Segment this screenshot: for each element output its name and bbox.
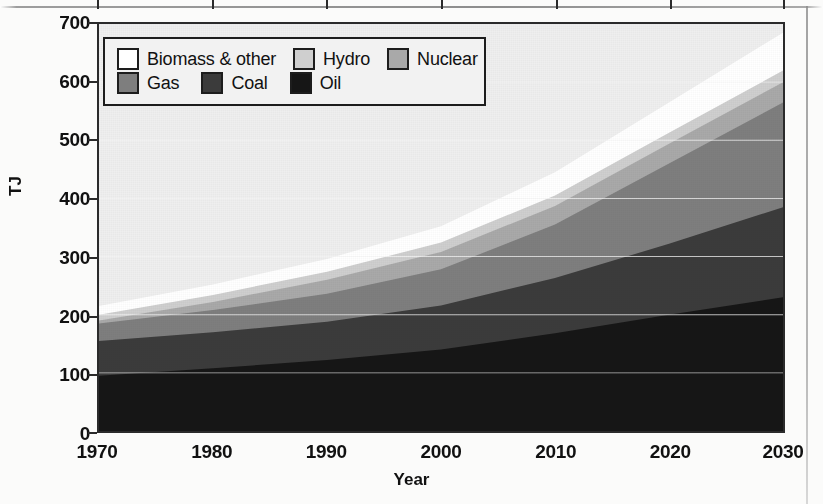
x-tick-label: 1990 <box>281 442 371 461</box>
y-tick-mark <box>88 22 97 24</box>
y-tick-label: 400 <box>18 189 90 208</box>
legend-row: Biomass & other Hydro Nuclear <box>117 48 474 70</box>
legend-swatch-nuclear-icon <box>387 48 409 70</box>
legend-label: Nuclear <box>417 49 478 70</box>
x-tick-mark <box>556 0 558 9</box>
y-tick-mark <box>88 257 97 259</box>
legend-label: Oil <box>320 73 341 94</box>
y-tick-label: 200 <box>18 307 90 326</box>
legend-swatch-gas-icon <box>117 72 139 94</box>
legend-label: Coal <box>231 73 267 94</box>
y-tick-mark <box>88 316 97 318</box>
y-tick-label: 600 <box>18 72 90 91</box>
legend-item-nuclear: Nuclear <box>387 48 478 70</box>
y-axis: 700 600 500 400 300 200 100 0 <box>10 22 90 433</box>
legend-label: Biomass & other <box>147 49 276 70</box>
x-tick-label: 2010 <box>511 442 601 461</box>
x-tick-mark <box>670 0 672 9</box>
x-axis-title: Year <box>0 470 823 490</box>
x-tick-mark <box>441 0 443 9</box>
legend-swatch-oil-icon <box>290 72 312 94</box>
legend-item-gas: Gas <box>117 72 179 94</box>
y-tick-label: 500 <box>18 130 90 149</box>
x-tick-label: 2000 <box>396 442 486 461</box>
y-axis-title: TJ <box>6 176 26 196</box>
legend-label: Hydro <box>323 49 370 70</box>
x-tick-label: 1980 <box>167 442 257 461</box>
legend-swatch-biomass-icon <box>117 48 139 70</box>
legend-item-biomass: Biomass & other <box>117 48 276 70</box>
legend-item-coal: Coal <box>201 72 267 94</box>
y-tick-mark <box>88 139 97 141</box>
legend-row: Gas Coal Oil <box>117 72 474 94</box>
y-tick-label: 300 <box>18 248 90 267</box>
y-tick-label: 100 <box>18 365 90 384</box>
scanned-page: 700 600 500 400 300 200 100 0 TJ <box>0 0 823 504</box>
x-tick-label: 1970 <box>52 442 142 461</box>
x-tick-label: 2030 <box>738 442 823 461</box>
legend-swatch-coal-icon <box>201 72 223 94</box>
y-tick-label: 700 <box>18 13 90 32</box>
legend-item-hydro: Hydro <box>293 48 370 70</box>
legend-label: Gas <box>147 73 179 94</box>
y-tick-mark <box>88 374 97 376</box>
x-tick-label: 2020 <box>625 442 715 461</box>
legend-item-oil: Oil <box>290 72 341 94</box>
legend: Biomass & other Hydro Nuclear Gas <box>103 37 486 106</box>
y-tick-mark <box>88 432 97 434</box>
x-tick-mark <box>783 0 785 9</box>
x-tick-mark <box>97 0 99 9</box>
x-tick-mark <box>212 0 214 9</box>
stacked-area-chart: 700 600 500 400 300 200 100 0 TJ <box>0 0 823 504</box>
y-tick-mark <box>88 81 97 83</box>
legend-swatch-hydro-icon <box>293 48 315 70</box>
x-tick-mark <box>326 0 328 9</box>
y-tick-mark <box>88 198 97 200</box>
